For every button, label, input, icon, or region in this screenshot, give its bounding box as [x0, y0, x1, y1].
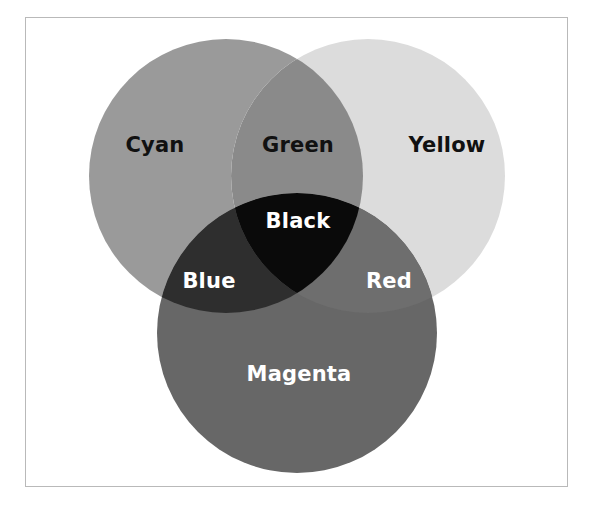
venn-diagram-figure: Cyan Green Yellow Black Blue Red Magenta — [0, 0, 589, 507]
venn-canvas — [0, 0, 589, 507]
